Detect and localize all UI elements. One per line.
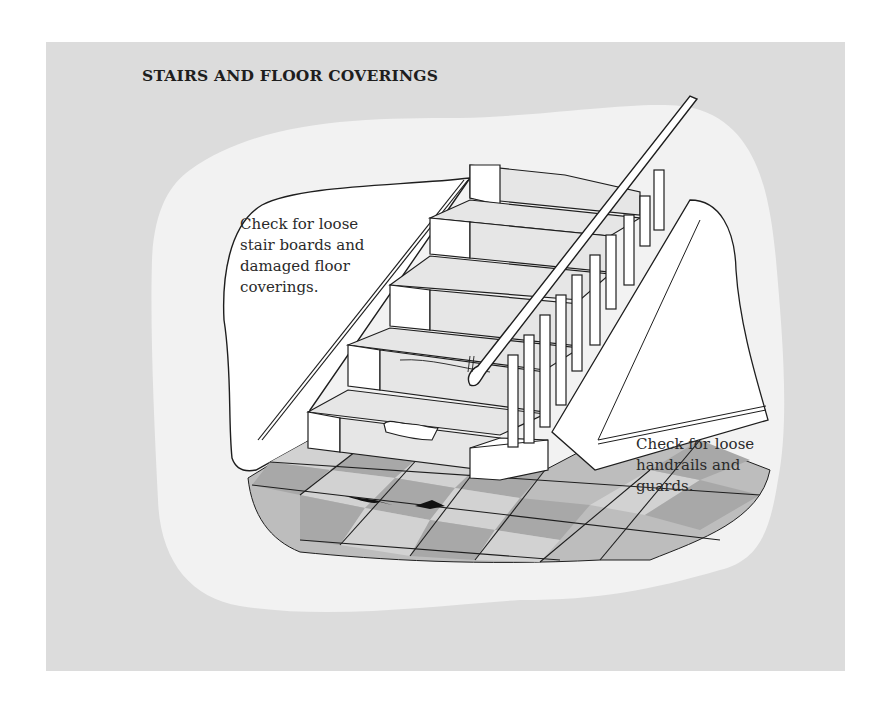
staircase-illustration (0, 0, 892, 701)
callout-handrails: Check for loose handrails and guards. (636, 434, 796, 497)
callout-stair-boards: Check for loose stair boards and damaged… (240, 214, 410, 298)
page-title: STAIRS AND FLOOR COVERINGS (142, 66, 438, 85)
